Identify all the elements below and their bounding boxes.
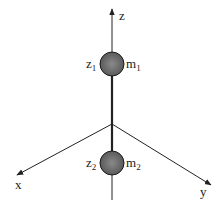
x-axis <box>17 124 112 175</box>
x-axis-label: x <box>15 177 22 192</box>
m1-label: m1 <box>126 56 141 73</box>
z1-label: z1 <box>86 56 96 73</box>
z-axis-label: z <box>119 8 125 23</box>
two-mass-diagram: z x y z1 m1 z2 m2 <box>0 0 223 212</box>
mass-2-ball <box>100 151 124 175</box>
z2-label: z2 <box>86 155 96 172</box>
m2-label: m2 <box>126 155 141 172</box>
mass-1-ball <box>100 52 124 76</box>
y-axis-label: y <box>200 184 207 199</box>
